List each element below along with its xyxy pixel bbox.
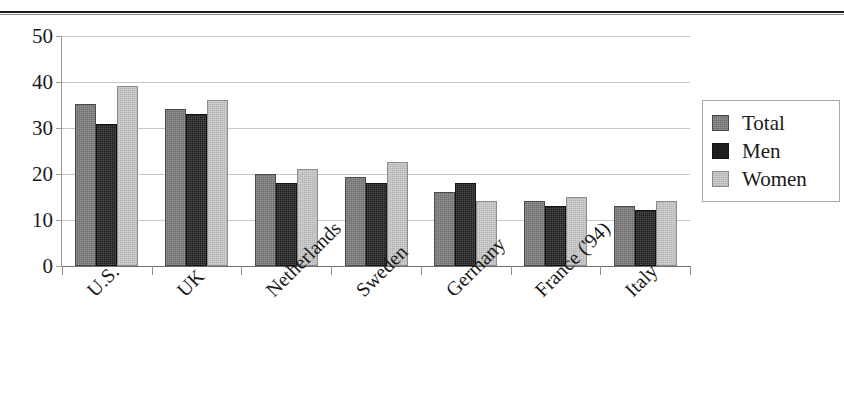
bar-group (75, 36, 138, 266)
bar-chart-figure: 01020304050 U.S.UKNetherlandsSwedenGerma… (0, 0, 844, 415)
x-tick-mark-5 (511, 266, 512, 275)
x-tick-mark-0 (62, 266, 63, 275)
x-tick-mark-6 (600, 266, 601, 275)
legend-label-women: Women (742, 169, 807, 190)
legend-label-total: Total (742, 113, 785, 134)
x-tick-mark-2 (241, 266, 242, 275)
bar-men-uk[interactable] (186, 114, 207, 266)
y-tick-label-50: 50 (32, 26, 53, 47)
men-swatch-icon (712, 143, 729, 159)
top-rule-shadow (0, 14, 844, 15)
bar-total-u-s-[interactable] (75, 104, 96, 266)
total-swatch-icon (712, 115, 729, 131)
bar-group (524, 36, 587, 266)
chart-legend: Total Men Women (702, 100, 840, 202)
y-tick-mark-40 (56, 82, 62, 83)
x-category-label: UK (173, 266, 208, 301)
x-tick-mark-4 (421, 266, 422, 275)
legend-item-men[interactable]: Men (712, 137, 833, 165)
bar-group (345, 36, 408, 266)
y-tick-mark-20 (56, 174, 62, 175)
y-tick-label-30: 30 (32, 118, 53, 139)
legend-item-total[interactable]: Total (712, 109, 833, 137)
x-tick-mark-3 (331, 266, 332, 275)
y-axis-line (61, 36, 62, 267)
bar-group (434, 36, 497, 266)
legend-label-men: Men (742, 141, 781, 162)
y-tick-label-10: 10 (32, 210, 53, 231)
bar-total-netherlands[interactable] (255, 174, 276, 266)
y-tick-mark-30 (56, 128, 62, 129)
y-tick-mark-10 (56, 220, 62, 221)
bar-men-italy[interactable] (635, 210, 656, 266)
bar-group (614, 36, 677, 266)
top-rule-divider (0, 11, 844, 13)
y-tick-label-20: 20 (32, 164, 53, 185)
bar-women-italy[interactable] (656, 201, 677, 266)
bar-total-uk[interactable] (165, 109, 186, 266)
bar-group (165, 36, 228, 266)
y-tick-label-40: 40 (32, 72, 53, 93)
bar-women-uk[interactable] (207, 100, 228, 266)
legend-item-women[interactable]: Women (712, 165, 833, 193)
bar-men-u-s-[interactable] (96, 124, 117, 266)
women-swatch-icon (712, 171, 729, 187)
y-tick-label-0: 0 (43, 256, 54, 277)
bar-group (255, 36, 318, 266)
bar-women-u-s-[interactable] (117, 86, 138, 266)
bar-total-italy[interactable] (614, 206, 635, 266)
x-tick-mark-1 (152, 266, 153, 275)
bar-total-germany[interactable] (434, 192, 455, 266)
y-tick-mark-50 (56, 36, 62, 37)
x-tick-mark-7 (690, 266, 691, 275)
bar-total-france-94-[interactable] (524, 201, 545, 266)
bar-total-sweden[interactable] (345, 177, 366, 266)
